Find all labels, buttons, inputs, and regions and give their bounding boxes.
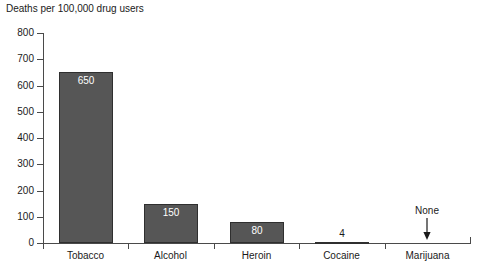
y-axis-line — [43, 33, 44, 244]
y-axis-tick-label: 0 — [3, 238, 34, 248]
bar — [315, 242, 369, 244]
bar-value-label: 4 — [315, 229, 369, 239]
y-axis-tick — [37, 59, 43, 60]
y-axis-tick-label: 200 — [3, 186, 34, 196]
x-axis-category-label: Tobacco — [43, 250, 128, 261]
x-axis-right-cap — [470, 237, 471, 244]
bar-value-label: 150 — [144, 208, 198, 218]
x-axis-tick — [214, 243, 215, 249]
down-arrow-icon — [418, 218, 436, 242]
x-axis-line — [43, 243, 471, 244]
bar-value-label: 80 — [230, 226, 284, 236]
x-axis-category-label: Alcohol — [128, 250, 213, 261]
y-axis-tick-label: 700 — [3, 54, 34, 64]
x-axis-tick — [385, 243, 386, 249]
chart-title: Deaths per 100,000 drug users — [6, 3, 144, 15]
bar-value-label: 650 — [59, 76, 113, 86]
y-axis-tick-label: 800 — [3, 28, 34, 38]
y-axis-tick — [37, 33, 43, 34]
x-axis-tick — [128, 243, 129, 249]
y-axis-tick-label: 300 — [3, 159, 34, 169]
x-axis-category-label: Cocaine — [299, 250, 384, 261]
y-axis-tick — [37, 191, 43, 192]
page-bleed-text — [40, 269, 340, 275]
x-axis-category-label: Heroin — [214, 250, 299, 261]
y-axis-tick-label: 100 — [3, 212, 34, 222]
bar-chart: Deaths per 100,000 drug users 0100200300… — [0, 0, 481, 275]
bar — [59, 72, 113, 243]
annotation-none-label: None — [387, 206, 467, 216]
x-axis-tick — [299, 243, 300, 249]
x-axis-category-label: Marijuana — [385, 250, 470, 261]
y-axis-tick — [37, 138, 43, 139]
y-axis-tick-label: 400 — [3, 133, 34, 143]
y-axis-tick — [37, 112, 43, 113]
y-axis-tick — [37, 164, 43, 165]
x-axis-tick — [43, 243, 44, 249]
y-axis-tick-label: 500 — [3, 107, 34, 117]
y-axis-tick-label: 600 — [3, 81, 34, 91]
y-axis-tick — [37, 217, 43, 218]
y-axis-tick — [37, 86, 43, 87]
